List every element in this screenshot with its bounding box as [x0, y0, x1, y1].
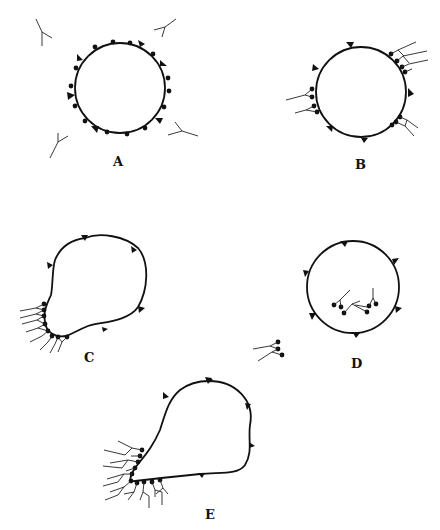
cell-membrane-c	[45, 235, 147, 336]
panel-label-b: B	[355, 157, 366, 172]
shed-complex-d	[253, 340, 284, 361]
antibody-receptor-patch-b-right-top	[389, 42, 428, 74]
panel-label-a: A	[112, 154, 124, 169]
panel-e: E	[103, 379, 255, 522]
cell-membrane-d	[307, 241, 399, 333]
free-antibodies-a	[36, 19, 198, 158]
capping-diagram: A B	[0, 0, 440, 530]
cell-membrane-a	[75, 43, 165, 133]
panel-b: B	[286, 42, 428, 172]
panel-label-e: E	[205, 507, 215, 522]
marker-triangles-b	[312, 42, 414, 143]
internalized-complexes-d	[332, 288, 379, 315]
receptor-dots-a	[69, 40, 172, 137]
antibody-receptor-patch-b-left	[286, 87, 319, 115]
antibody-cap-c	[20, 302, 69, 353]
panel-d: D	[253, 241, 402, 371]
antibody-cap-e	[103, 441, 168, 508]
cell-membrane-e	[130, 381, 250, 481]
marker-triangles-c	[47, 235, 212, 384]
panel-label-c: C	[84, 350, 94, 365]
panel-a: A	[36, 19, 198, 169]
panel-c: C	[20, 235, 212, 384]
panel-label-d: D	[351, 356, 362, 371]
antibody-receptor-patch-b-right-bottom	[390, 115, 418, 136]
